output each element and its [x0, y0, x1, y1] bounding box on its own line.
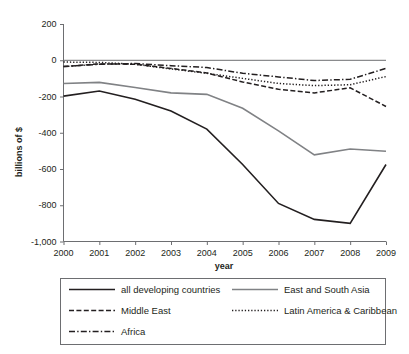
y-tick-label: -400 — [38, 128, 56, 138]
y-tick-label: -600 — [38, 164, 56, 174]
series-line-latin-america-caribbean — [64, 62, 387, 86]
chart-series-group — [64, 62, 387, 223]
y-tick-label: -1,000 — [31, 237, 57, 247]
legend-label-east-and-south-asia: East and South Asia — [284, 284, 370, 295]
legend-label-africa: Africa — [121, 326, 146, 337]
line-chart: 2000-200-400-600-800-1,000 2000200120022… — [0, 0, 409, 354]
y-tick-label: -800 — [38, 200, 56, 210]
x-tick-label: 2007 — [304, 248, 324, 258]
x-tick-label: 2008 — [340, 248, 360, 258]
x-tick-label: 2000 — [53, 248, 73, 258]
x-axis-ticks: 2000200120022003200420052006200720082009 — [53, 242, 396, 258]
chart-figure: 2000-200-400-600-800-1,000 2000200120022… — [0, 0, 409, 354]
y-tick-label: -200 — [38, 92, 56, 102]
x-tick-label: 2004 — [197, 248, 217, 258]
x-tick-label: 2006 — [268, 248, 288, 258]
chart-axes — [64, 24, 387, 242]
x-axis-title: year — [215, 261, 234, 271]
x-tick-label: 2003 — [161, 248, 181, 258]
legend-label-all-developing-countries: all developing countries — [121, 284, 221, 295]
x-tick-label: 2001 — [89, 248, 109, 258]
y-axis-ticks: 2000-200-400-600-800-1,000 — [31, 19, 64, 247]
y-tick-label: 0 — [51, 55, 56, 65]
legend-label-latin-america-caribbean: Latin America & Caribbean — [284, 305, 397, 316]
x-tick-label: 2005 — [233, 248, 253, 258]
chart-legend: all developing countriesEast and South A… — [61, 279, 398, 345]
series-line-all-developing-countries — [64, 91, 387, 223]
x-tick-label: 2009 — [376, 248, 396, 258]
y-axis-title: billions of $ — [14, 127, 24, 177]
y-tick-label: 200 — [41, 19, 56, 29]
series-line-africa — [64, 64, 387, 81]
x-tick-label: 2002 — [125, 248, 145, 258]
legend-label-middle-east: Middle East — [121, 305, 171, 316]
